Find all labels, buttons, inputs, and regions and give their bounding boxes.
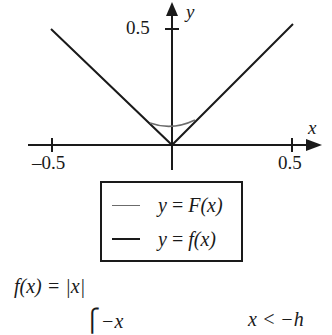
legend-label-lhs: y: [158, 228, 167, 251]
y-tick-label: 0.5: [126, 18, 150, 37]
legend-label-fn: F: [188, 194, 200, 217]
formula-condition: x < −h: [248, 308, 304, 331]
y-axis-arrow-icon: [166, 2, 178, 16]
legend-label-eq: =: [167, 194, 188, 217]
x-tick-label-pos: 0.5: [278, 153, 302, 172]
y-axis-label: y: [186, 2, 194, 21]
legend-item-f: y = f (x): [112, 227, 216, 251]
formula-brace: ⎧: [84, 308, 101, 333]
legend-label-arg: (x): [200, 194, 222, 217]
formula-line-1: f(x) = |x|: [14, 275, 85, 298]
legend-swatch-f: [112, 238, 140, 240]
x-axis-label: x: [308, 118, 316, 137]
x-tick-label-neg: –0.5: [32, 153, 65, 172]
legend-swatch-F: [112, 205, 140, 206]
legend-item-F: y = F (x): [112, 193, 223, 217]
x-axis-arrow-icon: [306, 139, 322, 151]
legend-label-arg: (x): [194, 228, 216, 251]
formula-line-2: ⎧−x: [84, 308, 123, 334]
formula-rest: (x) = |x|: [20, 275, 86, 297]
legend-label-eq: =: [167, 228, 188, 251]
formula-case: −x: [101, 310, 123, 332]
legend-label-lhs: y: [158, 194, 167, 217]
legend: y = F (x) y = f (x): [100, 181, 243, 262]
